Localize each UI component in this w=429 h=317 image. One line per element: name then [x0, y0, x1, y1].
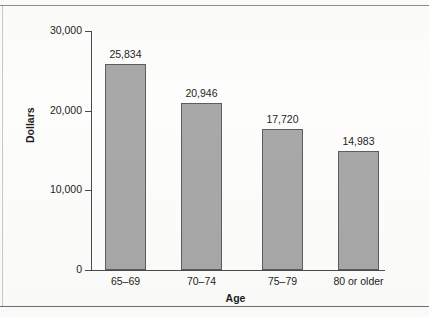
- x-axis-category-label: 80 or older: [319, 275, 399, 287]
- y-axis-title: Dollars: [24, 107, 36, 143]
- y-axis-tick-label: 30,000: [0, 25, 82, 36]
- x-axis-category-label: 70–74: [162, 275, 242, 287]
- bar: [338, 151, 379, 270]
- y-axis-tick-label: 20,000: [0, 105, 82, 116]
- x-axis-category-label: 75–79: [243, 275, 323, 287]
- y-axis-tick: [85, 190, 91, 191]
- x-axis-line: [91, 270, 385, 271]
- bar: [105, 64, 146, 270]
- bar-value-label: 25,834: [96, 48, 156, 60]
- bar: [262, 129, 303, 270]
- y-axis-tick-label: 10,000: [0, 184, 82, 195]
- bar: [181, 103, 222, 270]
- x-axis-title: Age: [0, 292, 429, 304]
- y-axis-tick-labels: 010,00020,00030,000: [0, 0, 82, 317]
- bar-value-label: 17,720: [253, 113, 313, 125]
- y-axis-tick: [85, 270, 91, 271]
- y-axis-tick-label: 0: [0, 264, 82, 275]
- y-axis-line: [91, 31, 92, 271]
- bar-value-label: 20,946: [172, 87, 232, 99]
- figure: 010,00020,00030,000 25,83465–6920,94670–…: [0, 0, 429, 317]
- bottom-rule: [0, 306, 429, 307]
- x-axis-category-label: 65–69: [86, 275, 166, 287]
- y-axis-tick: [85, 111, 91, 112]
- bar-chart-plot-area: 010,00020,00030,000 25,83465–6920,94670–…: [0, 0, 429, 317]
- x-axis-title-text: Age: [226, 292, 246, 304]
- bar-value-label: 14,983: [329, 135, 389, 147]
- y-axis-tick: [85, 31, 91, 32]
